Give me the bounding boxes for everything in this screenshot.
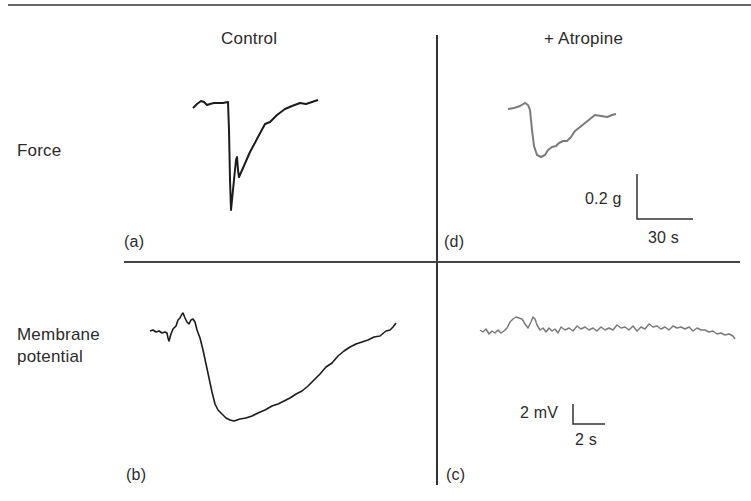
column-title-atropine: + Atropine	[544, 29, 623, 49]
panel-tag-a: (a)	[124, 233, 144, 251]
panel-tag-d: (d)	[444, 233, 464, 251]
panel-tag-b: (b)	[126, 466, 146, 484]
column-title-control: Control	[221, 29, 277, 49]
force-scale-bar	[637, 174, 693, 219]
figure-graphics	[0, 0, 751, 501]
membrane-scale-horizontal-label: 2 s	[575, 431, 597, 449]
membrane-scale-bar	[573, 404, 605, 424]
membrane-scale-vertical-label: 2 mV	[520, 404, 558, 422]
row-label-membrane-line1: Membrane	[17, 323, 100, 347]
membrane-control-trace	[150, 313, 396, 421]
force-scale-horizontal-label: 30 s	[648, 229, 679, 247]
force-atropine-trace	[508, 103, 616, 157]
membrane-atropine-trace	[480, 317, 735, 339]
figure: Control + Atropine Force Membrane potent…	[0, 0, 751, 501]
force-control-trace	[193, 100, 318, 210]
panel-tag-c: (c)	[446, 466, 465, 484]
force-scale-vertical-label: 0.2 g	[585, 190, 622, 208]
row-label-force: Force	[17, 139, 61, 163]
row-label-membrane-line2: potential	[17, 345, 83, 369]
